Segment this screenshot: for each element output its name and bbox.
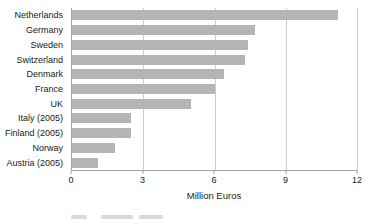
bar bbox=[72, 143, 115, 153]
category-label: Switzerland bbox=[0, 55, 66, 65]
bar bbox=[72, 113, 131, 123]
bar bbox=[72, 99, 191, 109]
tick-mark bbox=[357, 171, 358, 174]
y-axis-category-labels: NetherlandsGermanySwedenSwitzerlandDenma… bbox=[0, 8, 66, 170]
tick-label: 3 bbox=[140, 175, 145, 185]
category-label: Finland (2005) bbox=[0, 128, 66, 138]
x-axis-title: Million Euros bbox=[71, 190, 357, 201]
clipped-footnote-remnant bbox=[71, 215, 87, 219]
bar bbox=[72, 25, 255, 35]
category-label: Denmark bbox=[0, 69, 66, 79]
tick-label: 9 bbox=[283, 175, 288, 185]
category-label: Italy (2005) bbox=[0, 113, 66, 123]
bar bbox=[72, 158, 98, 168]
tick-label: 12 bbox=[352, 175, 362, 185]
x-axis-ticks: 036912 bbox=[71, 170, 357, 186]
bar bbox=[72, 128, 131, 138]
tick-mark bbox=[214, 171, 215, 174]
bar bbox=[72, 84, 215, 94]
category-label: France bbox=[0, 84, 66, 94]
bar bbox=[72, 40, 248, 50]
category-label: Norway bbox=[0, 143, 66, 153]
bar-chart: NetherlandsGermanySwedenSwitzerlandDenma… bbox=[0, 0, 365, 219]
category-label: Netherlands bbox=[0, 10, 66, 20]
category-label: Germany bbox=[0, 25, 66, 35]
category-label: UK bbox=[0, 99, 66, 109]
tick-label: 6 bbox=[211, 175, 216, 185]
category-label: Austria (2005) bbox=[0, 158, 66, 168]
bar bbox=[72, 55, 245, 65]
tick-mark bbox=[285, 171, 286, 174]
tick-mark bbox=[71, 171, 72, 174]
tick-mark bbox=[142, 171, 143, 174]
bar bbox=[72, 69, 224, 79]
clipped-footnote-remnant bbox=[101, 215, 133, 219]
plot-area bbox=[71, 8, 358, 171]
bar-series bbox=[72, 8, 357, 170]
bar bbox=[72, 10, 338, 20]
tick-label: 0 bbox=[68, 175, 73, 185]
clipped-footnote-remnant bbox=[139, 215, 163, 219]
category-label: Sweden bbox=[0, 40, 66, 50]
